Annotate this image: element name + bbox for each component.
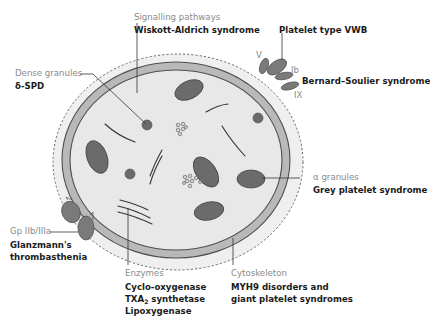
synthetase-text: synthetase <box>148 294 205 304</box>
gp-v-label: V <box>256 50 262 62</box>
myh9-line1: MYH9 disorders and <box>231 282 329 294</box>
glanzmann-line1: Glanzmann's <box>10 240 72 252</box>
grey-platelet-label: Grey platelet syndrome <box>313 185 427 197</box>
alpha-granules-label: α granules <box>313 172 359 184</box>
txa2-synthetase-label: TXA2 synthetase <box>125 294 205 306</box>
enzymes-label: Enzymes <box>125 268 164 280</box>
gp-iib-iiia-label: Gp IIb/IIIa <box>10 226 51 238</box>
lipoxygenase-label: Lipoxygenase <box>125 306 191 318</box>
cytoskeleton-label: Cytoskeleton <box>231 268 287 280</box>
wiskott-aldrich-label: Wiskott-Aldrich syndrome <box>134 25 260 37</box>
cyclo-oxygenase-label: Cyclo-oxygenase <box>125 282 206 294</box>
signalling-pathways-label: Signalling pathways <box>134 12 220 24</box>
gp-ib-label: Ib <box>291 65 299 77</box>
glanzmann-line2: thrombasthenia <box>10 252 87 264</box>
txa-text: TXA <box>125 294 144 304</box>
delta-spd-label: δ-SPD <box>15 81 44 93</box>
platelet-type-vwb-label: Platelet type VWB <box>279 25 367 37</box>
gp-ix-label: IX <box>294 90 302 102</box>
myh9-line2: giant platelet syndromes <box>231 294 353 306</box>
bernard-soulier-label: Bernard–Soulier syndrome <box>302 76 430 88</box>
dense-granules-label: Dense granules <box>15 68 82 80</box>
